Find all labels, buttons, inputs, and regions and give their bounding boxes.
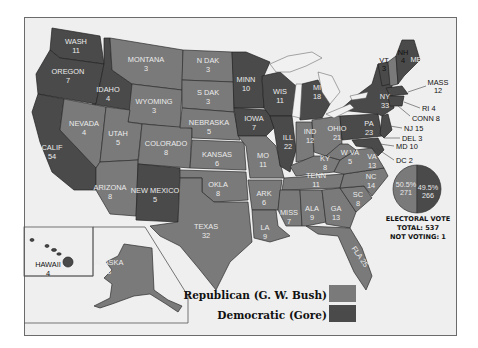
callout-nj: NJ 15 (390, 124, 423, 133)
svg-text:NY33: NY33 (380, 92, 390, 110)
svg-text:DC 2: DC 2 (396, 156, 413, 165)
svg-text:VA13: VA13 (367, 152, 376, 170)
svg-text:ELECTORAL VOTETOTAL: 537NOT VO: ELECTORAL VOTETOTAL: 537NOT VOTING: 1 (386, 215, 451, 241)
svg-text:RI 4: RI 4 (422, 104, 436, 113)
svg-text:MASS12: MASS12 (428, 78, 449, 95)
state-alaska[interactable] (94, 244, 182, 312)
svg-text:PA23: PA23 (364, 119, 373, 137)
legend: Republican (G. W. Bush) Democratic (Gore… (183, 285, 356, 322)
label-wash: WASH (65, 37, 87, 46)
svg-text:CONN 8: CONN 8 (412, 114, 440, 123)
legend-republican-swatch (329, 285, 356, 302)
legend-democratic-label: Democratic (Gore) (217, 309, 327, 321)
legend-democratic-swatch (329, 305, 356, 322)
us-electoral-map: WASH11 OREGON7 CALIF54 IDAHO4 NEVADA4 MO… (0, 0, 478, 348)
svg-text:NJ 15: NJ 15 (404, 124, 423, 133)
state-conn-ri[interactable] (388, 96, 404, 106)
svg-text:HAWAII4: HAWAII4 (35, 260, 61, 278)
svg-text:MD 10: MD 10 (396, 142, 418, 151)
lake-superior (270, 52, 322, 72)
electoral-vote-pie: 50.5%271 49.5%266 ELECTORAL VOTETOTAL: 5… (386, 165, 451, 241)
svg-text:ILL22: ILL22 (283, 133, 293, 151)
svg-text:MI18: MI18 (313, 83, 321, 101)
callout-mass: MASS12 (408, 78, 449, 95)
callout-md: MD 10 (380, 142, 418, 151)
callout-ri: RI 4 (404, 102, 436, 113)
svg-text:GA13: GA13 (331, 204, 342, 222)
legend-republican-label: Republican (G. W. Bush) (183, 289, 327, 301)
